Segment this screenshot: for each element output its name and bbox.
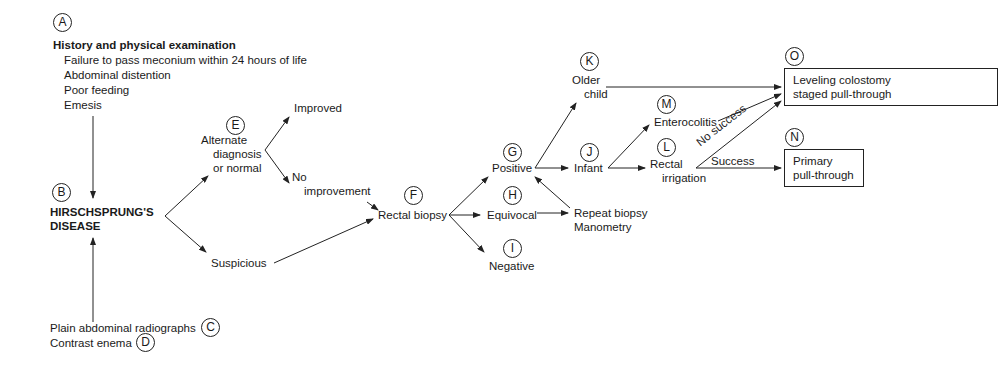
contrast-enema-label: Contrast enema	[50, 336, 132, 350]
primary-pull-through-box: Primary pull-through	[784, 149, 864, 187]
marker-l: L	[657, 138, 676, 157]
suspicious-label: Suspicious	[211, 256, 267, 270]
success-label: Success	[711, 154, 754, 168]
equivocal-label: Equivocal	[487, 208, 537, 222]
marker-a: A	[53, 13, 72, 32]
older-line1: Older	[572, 73, 600, 87]
leveling-colostomy-box: Leveling colostomy staged pull-through	[784, 68, 998, 106]
no-improvement-line1: No	[292, 170, 307, 184]
manometry-label: Manometry	[574, 220, 632, 234]
hirschsprung-line1: HIRSCHSPRUNG'S	[50, 205, 154, 219]
marker-f: F	[404, 186, 423, 205]
leveling-line2: staged pull-through	[793, 87, 989, 101]
primary-line1: Primary	[793, 154, 855, 168]
negative-label: Negative	[489, 259, 534, 273]
alternate-line2: diagnosis	[213, 147, 262, 161]
marker-o: O	[785, 47, 804, 66]
positive-label: Positive	[492, 161, 532, 175]
marker-j: J	[580, 143, 599, 162]
marker-h: H	[503, 186, 522, 205]
marker-i: I	[503, 239, 522, 258]
marker-g: G	[503, 143, 522, 162]
infant-label: Infant	[574, 161, 603, 175]
no-improvement-line2: improvement	[304, 184, 370, 198]
alternate-line3: or normal	[213, 161, 262, 175]
symptom-item: Abdominal distention	[64, 68, 171, 82]
marker-k: K	[580, 52, 599, 71]
repeat-biopsy-label: Repeat biopsy	[574, 206, 648, 220]
marker-n: N	[785, 128, 804, 147]
rectal-line1: Rectal	[650, 157, 683, 171]
rectal-biopsy-label: Rectal biopsy	[378, 208, 447, 222]
radiographs-label: Plain abdominal radiographs	[50, 321, 196, 335]
marker-d: D	[136, 333, 155, 352]
hirschsprung-line2: DISEASE	[50, 219, 101, 233]
primary-line2: pull-through	[793, 168, 855, 182]
improved-label: Improved	[294, 101, 342, 115]
symptom-item: Failure to pass meconium within 24 hours…	[64, 53, 307, 67]
symptom-item: Poor feeding	[64, 83, 129, 97]
marker-b: B	[52, 183, 71, 202]
older-line2: child	[584, 87, 608, 101]
leveling-line1: Leveling colostomy	[793, 73, 989, 87]
history-exam-title: History and physical examination	[53, 38, 236, 52]
marker-c: C	[201, 318, 220, 337]
marker-m: M	[657, 95, 676, 114]
alternate-line1: Alternate	[201, 133, 247, 147]
symptom-item: Emesis	[64, 98, 102, 112]
rectal-line2: irrigation	[662, 171, 706, 185]
